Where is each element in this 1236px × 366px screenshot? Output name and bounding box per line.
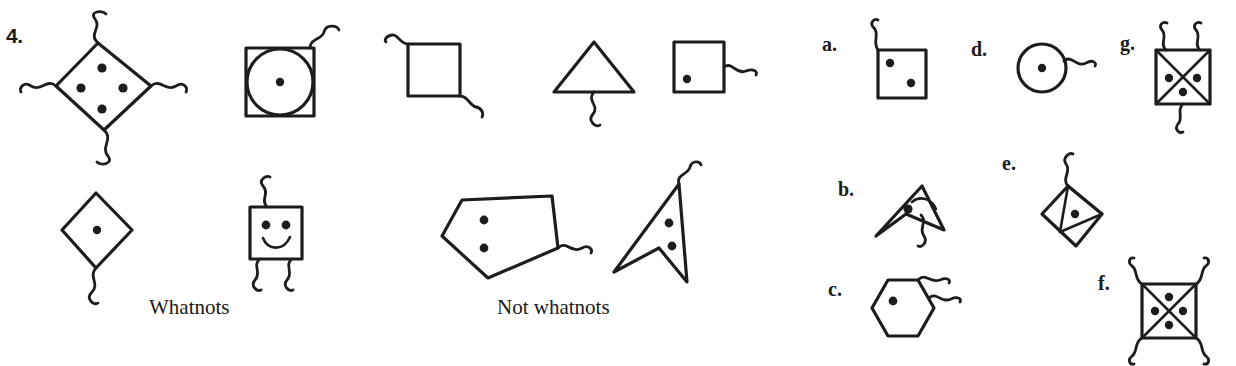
caption-not-whatnots: Not whatnots	[497, 295, 610, 320]
option-label-e: e.	[1002, 152, 1016, 175]
option-label-c: c.	[828, 278, 842, 301]
option-shape-a	[852, 20, 982, 140]
option-label-g: g.	[1120, 32, 1135, 55]
option-shape-d	[1000, 28, 1130, 138]
example-notwhatnot-triangle	[540, 22, 680, 152]
option-shape-g	[1142, 22, 1236, 152]
example-notwhatnot-square-1dot	[664, 26, 804, 146]
example-whatnot-smiley-square	[230, 175, 360, 315]
question-number: 4.	[6, 24, 23, 48]
option-label-a: a.	[822, 33, 837, 56]
example-notwhatnot-plain-square	[380, 22, 540, 152]
option-shape-c	[856, 268, 996, 366]
example-whatnot-diamond-4dots	[38, 8, 208, 168]
example-whatnot-square-circle	[236, 28, 386, 148]
option-label-f: f.	[1098, 272, 1110, 295]
option-shape-b	[870, 168, 1000, 278]
option-label-d: d.	[971, 38, 987, 61]
caption-whatnots: Whatnots	[149, 295, 229, 320]
example-notwhatnot-dart	[600, 160, 740, 300]
worksheet-figure: 4.	[0, 0, 1236, 366]
option-shape-f	[1122, 258, 1236, 366]
option-label-b: b.	[838, 178, 854, 201]
